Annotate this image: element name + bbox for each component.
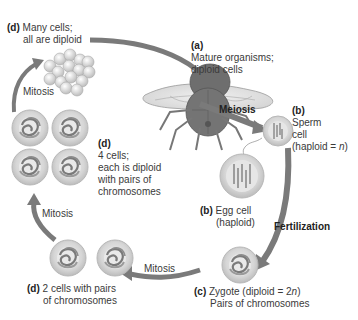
label-mature-organisms: (a) Mature organisms; diploid cells xyxy=(191,40,274,76)
life-cycle-artwork xyxy=(0,0,358,320)
label-text: 4 cells; xyxy=(98,150,129,161)
label-text: of chromosomes xyxy=(27,295,117,306)
label-text: ) xyxy=(297,286,300,297)
label-mitosis-left: Mitosis xyxy=(42,208,73,220)
label-text: cell xyxy=(292,129,307,140)
zygote-cell xyxy=(222,247,258,283)
label-two-cells: (d) 2 cells with pairs of chromosomes xyxy=(27,283,117,307)
label-tag: (d) xyxy=(27,283,40,294)
label-sperm-cell: (b) Sperm cell (haploid = n) xyxy=(292,105,348,153)
label-text: Pairs of chromosomes xyxy=(194,298,309,309)
four-cells xyxy=(12,110,88,185)
label-text: diploid cells xyxy=(191,64,243,75)
label-fertilization: Fertilization xyxy=(274,221,330,233)
label-tag: (b) xyxy=(292,105,305,116)
label-text: Sperm xyxy=(292,117,321,128)
label-meiosis: Meiosis xyxy=(219,104,256,116)
label-text: chromosomes xyxy=(98,186,161,197)
label-tag: (d) xyxy=(7,22,20,33)
label-text: 2 cells with pairs xyxy=(43,283,116,294)
label-zygote: (c) Zygote (diploid = 2n) Pairs of chrom… xyxy=(194,286,309,310)
label-egg-cell: (b) Egg cell (haploid) xyxy=(200,205,255,229)
label-text: each is diploid xyxy=(98,162,161,173)
label-tag: (c) xyxy=(194,286,206,297)
egg-cell xyxy=(220,154,264,198)
label-text: Mature organisms; xyxy=(191,52,274,63)
fertilization-arrow xyxy=(262,148,288,262)
two-cells xyxy=(50,240,133,276)
label-text: Zygote (diploid = 2 xyxy=(209,286,292,297)
sperm-cell xyxy=(263,116,293,146)
label-text: (haploid) xyxy=(200,217,255,228)
label-text: (haploid = xyxy=(292,141,339,152)
label-text: with pairs of xyxy=(98,174,151,185)
label-tag: (a) xyxy=(191,40,203,51)
label-text: ) xyxy=(345,141,348,152)
label-text: Many cells; xyxy=(23,22,73,33)
label-tag: (b) xyxy=(200,205,213,216)
label-tag: (d) xyxy=(98,138,111,149)
label-four-cells: (d) 4 cells; each is diploid with pairs … xyxy=(98,138,161,198)
label-mitosis-top: Mitosis xyxy=(23,86,54,98)
label-mitosis-bottom: Mitosis xyxy=(144,263,175,275)
label-text: all are diploid xyxy=(7,34,82,45)
label-text: Egg cell xyxy=(216,205,252,216)
label-many-cells: (d) Many cells; all are diploid xyxy=(7,22,82,46)
